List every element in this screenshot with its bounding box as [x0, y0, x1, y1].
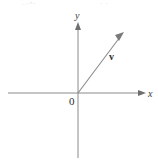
- x-axis-arrowhead-icon: [138, 90, 146, 96]
- y-axis-arrowhead-icon: [75, 22, 81, 30]
- y-axis-label: y: [75, 11, 79, 21]
- vector-label-v: v: [109, 52, 114, 62]
- vector-diagram-figure: ..-•- - - y x 0 v: [0, 0, 158, 163]
- coordinate-plane-svg: [0, 0, 158, 163]
- vector-v-shaft: [78, 37, 120, 93]
- x-axis-label: x: [148, 89, 152, 99]
- vector-v-arrowhead-icon: [115, 32, 124, 41]
- origin-label: 0: [69, 96, 75, 107]
